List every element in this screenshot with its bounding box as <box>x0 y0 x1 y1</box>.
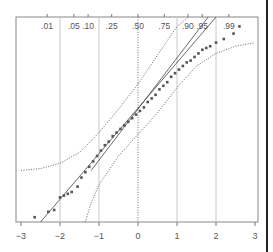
data-point <box>178 68 181 71</box>
x-tick-label: 2 <box>213 231 218 241</box>
data-point <box>201 49 204 52</box>
data-point <box>232 32 235 35</box>
data-point <box>189 59 192 62</box>
data-points <box>33 25 240 218</box>
data-point <box>53 209 56 212</box>
data-point <box>209 45 212 48</box>
data-point <box>100 149 103 152</box>
probability-label: .75 <box>158 21 170 31</box>
data-point <box>166 81 169 84</box>
data-point <box>215 41 218 44</box>
fitted-lines <box>41 17 217 222</box>
probability-label: .95 <box>196 21 208 31</box>
data-point <box>67 193 70 196</box>
data-point <box>146 101 149 104</box>
data-point <box>33 216 36 219</box>
data-point <box>174 72 177 75</box>
data-point <box>107 140 110 143</box>
data-point <box>185 61 188 64</box>
data-point <box>143 106 146 109</box>
data-point <box>115 131 118 134</box>
probability-label: .01 <box>41 21 53 31</box>
grid-lines <box>60 17 216 222</box>
data-point <box>127 121 130 124</box>
x-tick-label: 1 <box>174 231 179 241</box>
data-point <box>223 38 226 41</box>
data-point <box>170 76 173 79</box>
x-tick-label: 0 <box>135 231 140 241</box>
probability-label: .99 <box>223 21 235 31</box>
data-point <box>139 110 142 113</box>
data-point <box>193 56 196 59</box>
data-point <box>135 113 138 116</box>
data-point <box>162 85 165 88</box>
data-point <box>205 47 208 50</box>
confidence-band-line <box>85 43 255 222</box>
probability-label: .90 <box>182 21 194 31</box>
data-point <box>182 65 185 68</box>
data-point <box>123 124 126 127</box>
x-tick-label: −1 <box>94 231 104 241</box>
x-tick-label: 3 <box>252 231 257 241</box>
data-point <box>197 52 200 55</box>
data-point <box>238 25 241 28</box>
data-point <box>158 88 161 91</box>
data-point <box>84 171 87 174</box>
probability-label: .10 <box>82 21 94 31</box>
data-point <box>131 117 134 120</box>
probability-label: .05 <box>68 21 80 31</box>
data-point <box>88 166 91 169</box>
probability-label: .25 <box>106 21 118 31</box>
x-axis-ticks: −3−2−10123 <box>16 222 258 241</box>
normal-probability-plot: −3−2−10123 .01.05.10.25.50.75.90.95.99 <box>0 0 273 252</box>
data-point <box>70 191 73 194</box>
fitted-line <box>41 17 217 222</box>
data-point <box>63 194 66 197</box>
x-tick-label: −2 <box>55 231 65 241</box>
probability-label: .50 <box>132 21 144 31</box>
data-point <box>111 135 114 138</box>
data-point <box>104 144 107 147</box>
data-point <box>150 97 153 100</box>
data-point <box>76 185 79 188</box>
fitted-line <box>91 17 208 170</box>
data-point <box>92 160 95 163</box>
plot-frame <box>16 17 258 222</box>
data-point <box>119 128 122 131</box>
data-point <box>154 94 157 97</box>
data-point <box>47 211 50 214</box>
data-point <box>80 176 83 179</box>
data-point <box>59 196 62 199</box>
x-tick-label: −3 <box>16 231 26 241</box>
data-point <box>96 155 99 158</box>
